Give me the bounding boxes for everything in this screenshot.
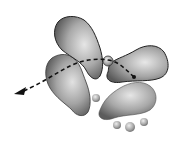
small-sphere-4 xyxy=(140,118,148,126)
path-start-dot xyxy=(132,75,136,79)
small-sphere-3 xyxy=(125,122,135,132)
small-sphere-1 xyxy=(92,94,100,102)
arrowhead-icon xyxy=(14,87,26,95)
bottom-right-lobe xyxy=(99,82,156,119)
diagram-svg xyxy=(0,0,180,141)
right-lobe xyxy=(107,46,168,83)
orbital-diagram xyxy=(0,0,180,141)
small-sphere-2 xyxy=(113,121,121,129)
